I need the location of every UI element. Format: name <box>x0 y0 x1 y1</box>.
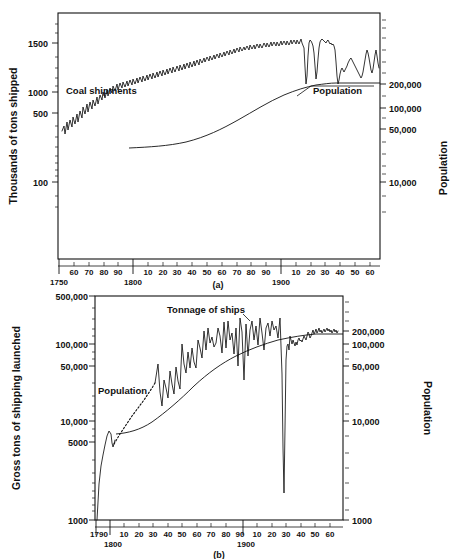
panel-b-xtick-minor: 30 <box>149 530 158 539</box>
panel-b-xtick-minor: 10 <box>253 530 262 539</box>
panel-a-xtick-minor: 80 <box>247 268 256 277</box>
panel-a-xtick-minor: 90 <box>262 268 271 277</box>
panel-a-right-axis-title: Population <box>437 141 449 195</box>
panel-b-plot-frame <box>95 296 343 520</box>
panel-b-left-tick-0: 500,000 <box>55 292 88 302</box>
panel-b-xtick-minor: 50 <box>178 530 187 539</box>
panel-a-xtick-1750: 1750 <box>50 278 68 287</box>
panel-b-right-axis: 200,000 100,000 50,000 10,000 1000 <box>343 302 385 526</box>
panel-b-right-axis-title: Population <box>422 381 434 435</box>
panel-a-xtick-minor: 70 <box>85 268 94 277</box>
panel-b-xtick-minor: 80 <box>222 530 231 539</box>
panel-a-right-tick-0: 200,000 <box>389 80 422 90</box>
panel-b-left-tick-1: 100,000 <box>55 340 88 350</box>
panel-a-left-tick-0: 1500 <box>28 39 48 49</box>
panel-b-xtick-minor: 60 <box>326 530 335 539</box>
panel-a: 1500 1000 500 100 Thousands of tons ship… <box>0 0 451 292</box>
panel-a-right-axis: 200,000 100,000 50,000 10,000 <box>380 20 422 212</box>
panel-b-xtick-minor: 30 <box>282 530 291 539</box>
panel-b-population-curve <box>116 334 343 434</box>
panel-a-right-tick-3: 10,000 <box>389 178 417 188</box>
panel-a-xtick-minor: 90 <box>114 268 123 277</box>
panel-b-xtick-minor: 40 <box>297 530 306 539</box>
panel-b-xtick-1790: 1790 <box>90 530 108 539</box>
panel-b-svg: 500,000 100,000 50,000 10,000 5000 1000 … <box>0 288 451 559</box>
panel-b-label: (b) <box>213 550 225 559</box>
panel-a-xtick-minor: 20 <box>159 268 168 277</box>
panel-b-annotation-tonnage-leader <box>243 314 250 321</box>
panel-b-xtick-minor: 50 <box>311 530 320 539</box>
panel-a-xtick-minor: 50 <box>351 268 360 277</box>
panel-b-tonnage-early-curve <box>97 431 115 520</box>
panel-b-right-tick-4: 1000 <box>352 516 372 526</box>
panel-b-xtick-minor: 90 <box>236 530 245 539</box>
panel-a-xtick-1800: 1800 <box>124 278 142 287</box>
panel-a-xtick-minor: 80 <box>100 268 109 277</box>
panel-b-left-axis-title: Gross tons of shipping launched <box>10 326 22 490</box>
panel-a-plot-frame <box>58 13 380 259</box>
panel-b-xtick-minor: 20 <box>268 530 277 539</box>
panel-b-right-tick-2: 50,000 <box>352 362 380 372</box>
panel-a-xtick-minor: 50 <box>203 268 212 277</box>
panel-b-x-axis: 1790 1800 1900 10 20 30 40 50 60 70 80 9… <box>90 520 343 549</box>
panel-a-xtick-minor: 60 <box>366 268 375 277</box>
panel-a-xtick-minor: 10 <box>292 268 301 277</box>
panel-b-left-tick-3: 10,000 <box>60 417 88 427</box>
panel-b-xtick-1800: 1800 <box>104 540 122 549</box>
panel-a-annotation-coal: Coal shipments <box>66 85 137 96</box>
panel-b-right-tick-0: 200,000 <box>352 327 385 337</box>
panel-a-xtick-minor: 60 <box>218 268 227 277</box>
panel-a-xtick-minor: 30 <box>321 268 330 277</box>
panel-a-xtick-minor: 10 <box>144 268 153 277</box>
panel-a-xtick-1900: 1900 <box>272 278 290 287</box>
panel-a-svg: 1500 1000 500 100 Thousands of tons ship… <box>0 0 451 292</box>
panel-a-left-axis-title: Thousands of tons shipped <box>7 67 19 204</box>
panel-b-right-tick-1: 100,000 <box>352 340 385 350</box>
panel-a-xtick-minor: 40 <box>336 268 345 277</box>
panel-b-left-tick-5: 1000 <box>68 516 88 526</box>
panel-a-left-tick-1: 1000 <box>28 88 48 98</box>
panel-a-xtick-minor: 60 <box>70 268 79 277</box>
panel-b-xtick-minor: 10 <box>120 530 129 539</box>
panel-a-xtick-minor: 20 <box>307 268 316 277</box>
panel-a-right-tick-1: 100,000 <box>389 104 422 114</box>
panel-a-left-tick-3: 100 <box>33 178 48 188</box>
panel-a-annotation-population: Population <box>313 85 362 96</box>
panel-b-xtick-minor: 40 <box>164 530 173 539</box>
panel-a-left-tick-2: 500 <box>33 109 48 119</box>
panel-a-xtick-minor: 70 <box>233 268 242 277</box>
panel-b-xtick-minor: 20 <box>135 530 144 539</box>
panel-b-xtick-minor: 60 <box>193 530 202 539</box>
panel-a-xtick-minor: 30 <box>173 268 182 277</box>
panel-b-tonnage-of-ships-curve <box>155 318 338 493</box>
panel-b: 500,000 100,000 50,000 10,000 5000 1000 … <box>0 288 451 559</box>
panel-b-right-tick-3: 10,000 <box>352 417 380 427</box>
panel-a-right-tick-2: 50,000 <box>389 125 417 135</box>
panel-b-xtick-minor: 70 <box>207 530 216 539</box>
panel-b-left-tick-4: 5000 <box>68 438 88 448</box>
panel-b-left-axis: 500,000 100,000 50,000 10,000 5000 1000 <box>55 292 95 526</box>
panel-a-left-axis: 1500 1000 500 100 <box>28 24 58 207</box>
panel-b-annotation-tonnage: Tonnage of ships <box>167 304 245 315</box>
panel-b-left-tick-2: 50,000 <box>60 362 88 372</box>
panel-b-xtick-1900: 1900 <box>237 540 255 549</box>
panel-b-annotation-population: Population <box>98 385 147 396</box>
panel-a-xtick-minor: 40 <box>188 268 197 277</box>
